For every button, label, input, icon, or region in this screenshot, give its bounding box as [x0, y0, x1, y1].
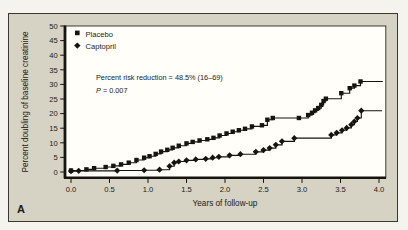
marker-square-placebo	[119, 162, 123, 166]
marker-square-placebo	[237, 128, 241, 132]
legend-label-placebo: Placebo	[86, 30, 113, 39]
marker-square-placebo	[111, 164, 115, 168]
marker-square-placebo	[217, 133, 221, 137]
marker-square-placebo	[190, 140, 194, 144]
marker-square-placebo	[197, 138, 201, 142]
y-tick-label: 15	[49, 124, 57, 133]
figure-panel: 05101520253035404550 0.00.51.01.52.02.53…	[8, 13, 398, 222]
marker-square-placebo	[348, 86, 352, 90]
marker-square-placebo	[159, 149, 163, 153]
marker-square-placebo	[265, 118, 269, 122]
marker-square-placebo	[243, 127, 247, 131]
km-survival-chart: 05101520253035404550 0.00.51.01.52.02.53…	[9, 14, 399, 223]
marker-square-placebo	[352, 83, 356, 87]
y-tick-label: 25	[49, 95, 57, 104]
x-tick-label: 1.5	[181, 185, 192, 194]
x-tick-label: 1.0	[143, 185, 154, 194]
placebo-square-icon	[75, 31, 80, 36]
marker-square-placebo	[271, 116, 275, 120]
y-tick-label: 35	[49, 66, 57, 75]
marker-square-placebo	[165, 148, 169, 152]
y-tick-label: 40	[49, 51, 57, 60]
marker-square-placebo	[306, 113, 310, 117]
marker-square-placebo	[103, 165, 107, 169]
marker-square-placebo	[177, 144, 181, 148]
x-axis-ticks: 0.00.51.01.52.02.53.03.54.0	[66, 179, 385, 194]
marker-square-placebo	[260, 123, 264, 127]
marker-square-placebo	[127, 160, 131, 164]
marker-square-placebo	[358, 79, 362, 83]
y-tick-label: 45	[49, 36, 57, 45]
marker-square-placebo	[339, 91, 343, 95]
marker-square-placebo	[154, 152, 158, 156]
x-tick-label: 3.5	[335, 185, 346, 194]
y-tick-label: 10	[49, 139, 57, 148]
y-axis-title: Percent doubling of baseline creatinine	[21, 31, 30, 173]
marker-square-placebo	[92, 166, 96, 170]
marker-square-placebo	[224, 131, 228, 135]
marker-square-placebo	[211, 136, 215, 140]
marker-square-placebo	[184, 141, 188, 145]
marker-square-placebo	[170, 146, 174, 150]
y-tick-label: 0	[54, 168, 58, 177]
x-tick-label: 3.0	[297, 185, 308, 194]
marker-square-placebo	[319, 103, 323, 107]
marker-square-placebo	[147, 154, 151, 158]
y-tick-label: 20	[49, 109, 57, 118]
x-tick-label: 4.0	[374, 185, 385, 194]
marker-square-placebo	[142, 155, 146, 159]
y-axis-ticks: 05101520253035404550	[49, 22, 64, 177]
panel-letter: A	[17, 203, 25, 215]
x-tick-label: 0.5	[104, 185, 115, 194]
x-axis-title: Years of follow-up	[193, 199, 258, 208]
y-tick-label: 50	[49, 22, 57, 31]
marker-square-placebo	[134, 158, 138, 162]
x-tick-label: 2.5	[258, 185, 269, 194]
legend-label-captopril: Captopril	[86, 42, 117, 51]
y-tick-label: 30	[49, 80, 57, 89]
x-tick-label: 2.0	[220, 185, 231, 194]
marker-square-placebo	[205, 137, 209, 141]
marker-square-placebo	[231, 130, 235, 134]
x-tick-label: 0.0	[66, 185, 77, 194]
risk-reduction-text: Percent risk reduction = 48.5% (16–69)	[96, 73, 223, 82]
marker-square-placebo	[297, 116, 301, 120]
marker-square-placebo	[324, 97, 328, 101]
p-value-text: P = 0.007	[96, 86, 127, 95]
marker-square-placebo	[250, 124, 254, 128]
y-tick-label: 5	[54, 153, 58, 162]
